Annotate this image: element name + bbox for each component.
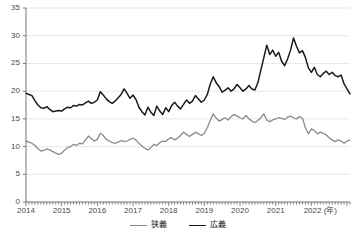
x-axis-tick-label: 2020 bbox=[225, 207, 255, 215]
y-axis-tick-label: 15 bbox=[2, 115, 20, 123]
legend-label: 広義 bbox=[210, 221, 226, 229]
y-axis-tick-label: 0 bbox=[2, 198, 20, 206]
x-axis-tick-label: 2018 bbox=[154, 207, 184, 215]
y-axis-tick-label: 35 bbox=[2, 4, 20, 12]
line-chart: 35302520151050 2014201520162017201820192… bbox=[0, 0, 356, 243]
x-axis-tick-label: 2022 (年) bbox=[297, 207, 343, 215]
y-axis-tick-label: 10 bbox=[2, 143, 20, 151]
x-axis-tick-label: 2017 bbox=[118, 207, 148, 215]
series-line-narrow bbox=[26, 114, 350, 154]
x-axis-tick-label: 2014 bbox=[11, 207, 41, 215]
x-axis-tick-label: 2015 bbox=[47, 207, 77, 215]
y-axis-tick-label: 5 bbox=[2, 170, 20, 178]
y-axis-tick-label: 30 bbox=[2, 32, 20, 40]
x-axis-tick-label: 2019 bbox=[189, 207, 219, 215]
chart-legend: 狭義広義 bbox=[0, 221, 356, 229]
y-axis-tick-label: 20 bbox=[2, 87, 20, 95]
legend-swatch-icon bbox=[130, 225, 147, 226]
legend-label: 狭義 bbox=[151, 221, 167, 229]
legend-item-narrow[interactable]: 狭義 bbox=[130, 221, 167, 229]
x-axis-tick-label: 2021 bbox=[261, 207, 291, 215]
legend-swatch-icon bbox=[189, 225, 206, 226]
x-axis-tick-label: 2016 bbox=[82, 207, 112, 215]
legend-item-broad[interactable]: 広義 bbox=[189, 221, 226, 229]
series-line-broad bbox=[26, 38, 350, 116]
y-axis-tick-label: 25 bbox=[2, 59, 20, 67]
